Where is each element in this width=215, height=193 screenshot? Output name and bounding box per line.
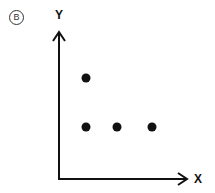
data-point	[113, 123, 122, 132]
data-point	[148, 123, 157, 132]
data-points	[82, 74, 157, 132]
data-point	[82, 123, 91, 132]
y-axis-label: Y	[55, 9, 63, 21]
data-point	[82, 74, 91, 83]
x-axis-label: X	[194, 173, 202, 185]
scatter-plot	[0, 0, 215, 193]
y-axis	[53, 32, 65, 179]
x-axis	[58, 173, 187, 185]
